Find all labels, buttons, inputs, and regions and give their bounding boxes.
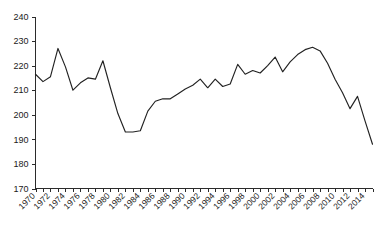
x-axis-tick-label: 2014: [346, 191, 367, 212]
data-line-series-1: [36, 47, 373, 144]
y-axis-tick-label: 190: [13, 135, 28, 145]
y-axis-tick-labels: 240230220210200190180170: [13, 12, 28, 194]
y-axis-tick-label: 230: [13, 36, 28, 46]
y-axis-tick-label: 240: [13, 12, 28, 22]
x-axis-tick-labels: 1970197219741976197819801982198419861988…: [16, 191, 366, 212]
x-axis-tick-marks: [37, 189, 374, 193]
y-axis-tick-label: 180: [13, 159, 28, 169]
y-axis-tick-label: 200: [13, 110, 28, 120]
line-chart: 240230220210200190180170 197019721974197…: [0, 0, 380, 235]
y-axis-tick-label: 170: [13, 184, 28, 194]
y-axis-tick-label: 220: [13, 61, 28, 71]
y-axis-tick-label: 210: [13, 85, 28, 95]
y-axis-tick-marks: [32, 18, 36, 190]
chart-canvas: 240230220210200190180170 197019721974197…: [0, 0, 380, 235]
